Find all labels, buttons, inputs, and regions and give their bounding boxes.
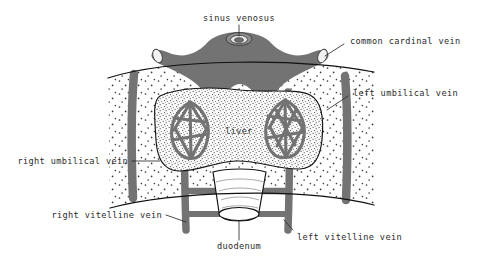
label-common-cardinal-vein: common cardinal vein	[350, 36, 460, 46]
right-umbilical-vein-shaft	[132, 74, 134, 198]
label-left-umbilical-vein: left umbilical vein	[353, 88, 458, 98]
left-umbilical-vein-vessel	[345, 76, 347, 200]
leader-common-cardinal-vein	[325, 44, 344, 56]
embryo-venous-diagram: sinus venosus common cardinal vein left …	[0, 0, 479, 261]
label-right-vitelline-vein: right vitelline vein	[52, 210, 162, 220]
diagram-canvas: sinus venosus common cardinal vein left …	[0, 0, 479, 261]
label-left-vitelline-vein: left vitelline vein	[297, 232, 402, 242]
label-liver: liver	[225, 126, 253, 136]
label-right-umbilical-vein: right umbilical vein	[18, 156, 128, 166]
left-umbilical-vein-shaft	[345, 76, 347, 200]
right-umbilical-vein-vessel	[132, 74, 134, 198]
duodenum-lumen-opening	[219, 208, 259, 221]
duodenum-organ	[213, 169, 266, 221]
label-sinus-venosus: sinus venosus	[203, 13, 275, 23]
sinus-venosus-lumen	[235, 38, 244, 43]
label-duodenum: duodenum	[217, 241, 261, 251]
